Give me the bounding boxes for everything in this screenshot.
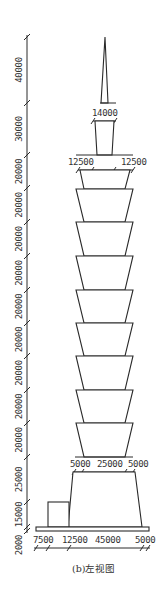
vertical-dimension-label: 20000 (14, 427, 24, 453)
left-elevation-drawing: 4000030000200002000020000200002000020000… (0, 0, 163, 615)
crown-right-label: 12500 (121, 157, 147, 167)
vertical-dimension-label: 20000 (14, 394, 24, 420)
tiers (76, 189, 133, 457)
vertical-dimension-label: 20000 (14, 327, 24, 353)
base-bottom-dimension-line (34, 545, 150, 551)
base-bottom-label-0: 7500 (33, 535, 53, 545)
ground-slab (36, 527, 149, 531)
base-block (68, 472, 142, 527)
vertical-dimension-label: 20000 (14, 159, 24, 185)
tier-2 (76, 222, 133, 256)
vertical-dimension-label: 40000 (14, 57, 24, 83)
tier-6 (76, 356, 133, 390)
base-bottom-label-3: 5000 (135, 535, 155, 545)
tier-1 (76, 189, 133, 222)
tier-7 (76, 390, 133, 423)
base-bottom-label-2: 45000 (95, 535, 121, 545)
base-top-left-label: 5000 (70, 459, 90, 469)
base-top-center-label: 25000 (97, 459, 123, 469)
figure-caption: (b)左视图 (72, 563, 116, 574)
tier-3 (76, 256, 133, 290)
crown-shaft (95, 121, 114, 155)
base-bottom-label-1: 12500 (62, 535, 88, 545)
tier-8 (76, 423, 133, 457)
vertical-dimension-label: 20000 (14, 260, 24, 286)
spire-width-label: 14000 (92, 108, 118, 118)
spire (100, 37, 116, 103)
tier-0 (80, 170, 130, 189)
base-top-right-label: 5000 (128, 459, 148, 469)
vertical-dimension-label: 20000 (14, 360, 24, 386)
vertical-dimension-label: 2000 (14, 535, 24, 555)
vertical-dimension-label: 25000 (14, 467, 24, 493)
annex-block (48, 502, 69, 527)
tier-5 (76, 323, 133, 356)
tier-4 (76, 290, 133, 323)
crown-left-label: 12500 (68, 157, 94, 167)
vertical-dimension-label: 20000 (14, 294, 24, 320)
vertical-dimension-label: 30000 (14, 116, 24, 142)
vertical-dimension-label: 20000 (14, 192, 24, 218)
vertical-dimension-chain: 4000030000200002000020000200002000020000… (14, 34, 30, 555)
vertical-dimension-label: 20000 (14, 226, 24, 252)
vertical-dimension-label: 15000 (14, 502, 24, 528)
